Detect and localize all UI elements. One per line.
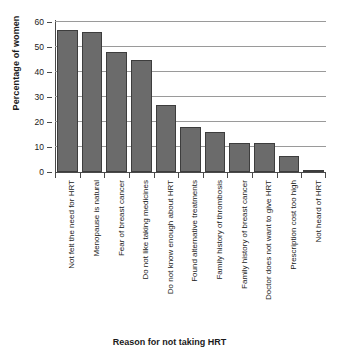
x-axis-tick-label: Found alternative treatments [190,180,199,282]
x-axis-tick-label: Doctor does not want to give HRT [264,180,273,300]
x-label-slot: Doctor does not want to give HRT [252,180,277,325]
x-label-slot: Found alternative treatments [178,180,203,325]
y-axis-tick: 20 [0,117,55,127]
x-axis-tick-mark [227,173,228,178]
y-axis-tick-label: 0 [4,167,44,177]
x-axis-tick-label: Prescription cost too high [289,180,298,270]
bar [82,32,103,172]
bar [303,170,324,173]
x-axis-ticks [55,173,326,179]
bar [57,30,78,173]
bar [180,127,201,172]
y-axis-tick-mark [47,72,52,73]
x-axis-tick-label: Do not like taking medicines [141,180,150,280]
x-label-slot: Do not like taking medicines [129,180,154,325]
y-axis-tick: 50 [0,42,55,52]
x-axis-tick-mark [301,173,302,178]
y-axis-tick-mark [47,122,52,123]
bar [106,52,127,172]
y-axis-tick-mark [47,172,52,173]
x-axis-tick-label: Family history of breast cancer [240,180,249,289]
bar-series [55,22,326,172]
y-axis-tick-label: 50 [4,42,44,52]
bar-slot [277,22,302,172]
x-axis-tick-mark [203,173,204,178]
y-axis-tick-label: 30 [4,92,44,102]
bar-slot [203,22,228,172]
x-axis-tick-label: Family history of thrombosis [215,180,224,280]
x-label-slot: Family history of thrombosis [203,180,228,325]
y-axis-tick-mark [47,22,52,23]
bar-chart: Percentage of women 0102030405060 Not fe… [0,0,339,358]
x-label-slot: Not felt the need for HRT [55,180,80,325]
x-axis-tick-mark [252,173,253,178]
x-axis-tick-mark [325,173,326,178]
x-axis-tick-label: Not heard of HRT [314,180,323,243]
x-label-slot: Prescription cost too high [277,180,302,325]
y-axis-tick-mark [47,47,52,48]
x-axis-tick-label: Fear of breast cancer [117,180,126,256]
x-axis-tick-mark [129,173,130,178]
x-axis-tick-mark [178,173,179,178]
x-label-slot: Fear of breast cancer [104,180,129,325]
bar [156,105,177,173]
y-axis-tick-label: 60 [4,17,44,27]
bar [229,143,250,172]
bar-slot [301,22,326,172]
x-axis-tick-mark [277,173,278,178]
bar-slot [129,22,154,172]
bar-slot [80,22,105,172]
x-axis-title: Reason for not taking HRT [0,337,339,347]
x-axis-tick-mark [154,173,155,178]
x-axis-tick-label: Menopause is natural [92,180,101,257]
x-axis-labels: Not felt the need for HRTMenopause is na… [55,180,326,325]
x-label-slot: Do not know enough about HRT [154,180,179,325]
y-axis-tick-mark [47,97,52,98]
y-axis-tick: 30 [0,92,55,102]
y-axis-tick: 10 [0,142,55,152]
y-axis-tick: 60 [0,17,55,27]
x-axis-tick-mark [55,173,56,178]
bar-slot [154,22,179,172]
y-axis-tick-label: 10 [4,142,44,152]
bar-slot [55,22,80,172]
x-axis-tick-label: Not felt the need for HRT [67,180,76,269]
bar-slot [252,22,277,172]
bar-slot [104,22,129,172]
y-axis-tick-mark [47,147,52,148]
bar-slot [178,22,203,172]
y-axis-tick-label: 20 [4,117,44,127]
x-axis-tick-mark [80,173,81,178]
bar [254,143,275,172]
bar [131,60,152,173]
x-label-slot: Menopause is natural [80,180,105,325]
x-label-slot: Not heard of HRT [301,180,326,325]
x-axis-tick-mark [104,173,105,178]
x-label-slot: Family history of breast cancer [227,180,252,325]
bar [205,132,226,172]
y-axis-tick: 40 [0,67,55,77]
x-axis-tick-label: Do not know enough about HRT [166,180,175,294]
y-axis-tick: 0 [0,167,55,177]
bar-slot [227,22,252,172]
bar [279,156,300,172]
y-axis-tick-label: 40 [4,67,44,77]
